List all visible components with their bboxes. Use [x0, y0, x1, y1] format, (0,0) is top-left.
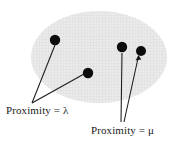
label-proximity-mu: Proximity = μ — [91, 124, 154, 136]
label-proximity-mu-text: Proximity = μ — [91, 124, 154, 136]
point-mu-2 — [136, 46, 146, 56]
diagram-canvas — [0, 0, 175, 144]
label-proximity-lambda: Proximity = λ — [6, 104, 68, 116]
proximity-region — [31, 11, 167, 103]
proximity-diagram: Proximity = λ Proximity = μ — [0, 0, 175, 144]
point-mu-1 — [117, 42, 127, 52]
point-lambda-2 — [83, 68, 93, 78]
label-proximity-lambda-text: Proximity = λ — [6, 104, 68, 116]
point-lambda-1 — [50, 35, 60, 45]
